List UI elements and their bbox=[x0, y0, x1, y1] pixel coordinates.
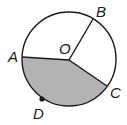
circle-diagram: A B C D O bbox=[0, 0, 127, 125]
point-d-dot bbox=[39, 96, 44, 101]
radius-ob bbox=[69, 19, 93, 60]
label-d: D bbox=[33, 105, 44, 122]
label-c: C bbox=[110, 84, 121, 101]
label-o: O bbox=[59, 40, 71, 57]
label-b: B bbox=[96, 3, 106, 20]
label-a: A bbox=[7, 48, 18, 65]
